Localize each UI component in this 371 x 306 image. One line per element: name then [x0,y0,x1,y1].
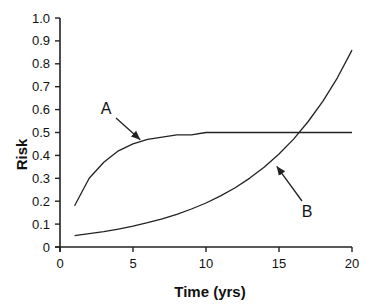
annotation-b-arrow [277,166,302,201]
y-tick-label: 0.5 [32,125,50,140]
x-tick-label: 20 [345,256,359,271]
series-a-line [75,133,352,206]
y-tick-label: 0 [43,240,50,255]
y-tick-label: 0.8 [32,56,50,71]
y-tick-label: 0.3 [32,171,50,186]
y-axis-label: Risk [13,138,30,170]
annotation-b-label: B [302,203,313,220]
y-tick-label: 0.1 [32,217,50,232]
annotation-a-label: A [101,100,112,117]
x-tick-label: 10 [199,256,213,271]
risk-chart: 00.10.20.30.40.50.60.70.80.91.005101520T… [0,0,371,306]
y-tick-label: 0.6 [32,102,50,117]
x-axis-label: Time (yrs) [174,283,245,300]
y-tick-label: 0.4 [32,148,50,163]
x-tick-label: 15 [272,256,286,271]
y-tick-label: 0.7 [32,79,50,94]
y-tick-label: 1.0 [32,11,50,26]
annotation-a-arrow [116,118,140,140]
y-tick-label: 0.2 [32,194,50,209]
x-tick-label: 0 [56,256,63,271]
x-tick-label: 5 [129,256,136,271]
y-tick-label: 0.9 [32,33,50,48]
